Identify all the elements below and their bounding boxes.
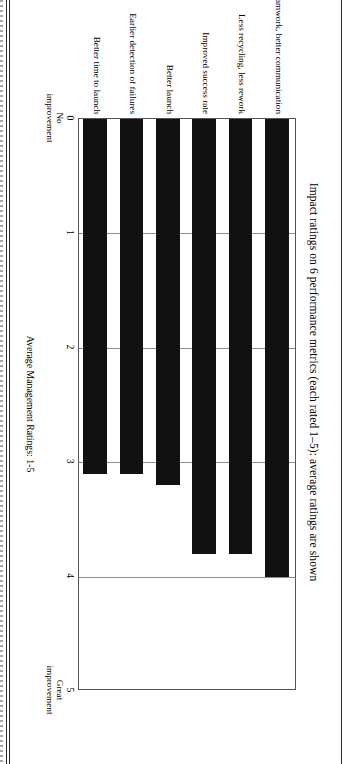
bar-row xyxy=(83,119,107,691)
page-rule-right xyxy=(341,0,342,764)
x-tick-caption-line1: Great xyxy=(55,666,65,715)
bar xyxy=(229,119,253,554)
page-rule-left xyxy=(6,0,7,764)
x-tick-value: 2 xyxy=(65,344,76,349)
bar-row xyxy=(120,119,144,691)
category-label: Earlier detection of failures xyxy=(128,13,137,114)
bar-series xyxy=(79,119,295,689)
x-tick-3: 3 xyxy=(65,459,76,464)
bar-row xyxy=(192,119,216,691)
category-label: Better time to launch xyxy=(92,37,101,114)
x-tick-4: 4 xyxy=(65,573,76,578)
x-tick-caption-line2: improvement xyxy=(44,94,54,143)
x-tick-5: 5 Great improvement xyxy=(44,666,76,715)
category-label: Improved teamwork, better communication xyxy=(274,0,283,114)
bar xyxy=(83,119,107,474)
category-label: Improved success rate xyxy=(201,32,210,114)
bar xyxy=(192,119,216,554)
x-tick-value: 1 xyxy=(65,230,76,235)
page-edge-perforation xyxy=(0,0,3,764)
plot-area xyxy=(78,118,296,690)
x-axis-ticks: 0 No improvement 1 2 3 4 5 Gre xyxy=(34,118,76,690)
bar-row xyxy=(265,119,289,691)
x-tick-1: 1 xyxy=(65,230,76,235)
page-rule-left-inner xyxy=(9,0,10,764)
x-tick-value: 3 xyxy=(65,459,76,464)
x-tick-value: 0 xyxy=(65,94,76,143)
bar-chart-figure: Impact ratings on 6 performance metrics … xyxy=(22,32,322,732)
x-tick-0: 0 No improvement xyxy=(44,94,76,143)
x-tick-caption-line1: No xyxy=(55,94,65,143)
bar xyxy=(265,119,289,577)
x-axis-label: Average Management Ratings: 1-5 xyxy=(25,118,36,690)
x-tick-value: 4 xyxy=(65,573,76,578)
bar xyxy=(156,119,180,485)
x-tick-caption-line2: improvement xyxy=(44,666,54,715)
rotated-figure-wrapper: Impact ratings on 6 performance metrics … xyxy=(22,32,322,732)
bar-row xyxy=(229,119,253,691)
x-tick-value: 5 xyxy=(65,666,76,715)
chart-title: Impact ratings on 6 performance metrics … xyxy=(308,32,320,732)
category-label: Less recycling, less rework xyxy=(237,14,246,114)
page-canvas: Impact ratings on 6 performance metrics … xyxy=(0,0,344,764)
bar xyxy=(120,119,144,474)
category-label: Better launch xyxy=(165,65,174,114)
category-axis-labels: Improved teamwork, better communication … xyxy=(78,32,296,114)
bar-row xyxy=(156,119,180,691)
x-tick-2: 2 xyxy=(65,344,76,349)
